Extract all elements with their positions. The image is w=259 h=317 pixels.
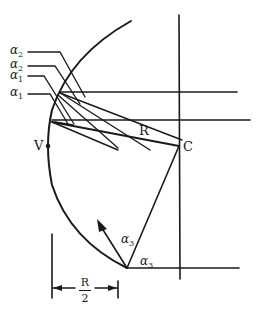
mirror-arc: [48, 21, 131, 268]
label-alpha3-axis: α3: [140, 255, 153, 270]
arrow-right-icon: [108, 285, 117, 291]
diagram-lines: [0, 0, 259, 317]
label-alpha1-third: α1: [10, 69, 23, 84]
label-center: C: [183, 140, 193, 153]
reflected-ray-2a: [52, 122, 118, 150]
vertex-point: [46, 144, 51, 149]
mirror-diagram: α2 α2 α1 α1 V C R α3 α3 R 2: [0, 0, 259, 317]
leader-alpha2-top: [28, 52, 85, 97]
arrow-left-icon: [53, 285, 62, 291]
label-alpha3-ray: α3: [121, 233, 134, 248]
normal-line: [127, 146, 179, 268]
radius-line: [52, 122, 179, 146]
arrowhead-icon: [97, 219, 107, 232]
label-vertex: V: [34, 139, 43, 152]
label-radius: R: [139, 124, 149, 137]
label-half-radius: R 2: [79, 277, 91, 304]
label-alpha1-fourth: α1: [10, 86, 23, 101]
